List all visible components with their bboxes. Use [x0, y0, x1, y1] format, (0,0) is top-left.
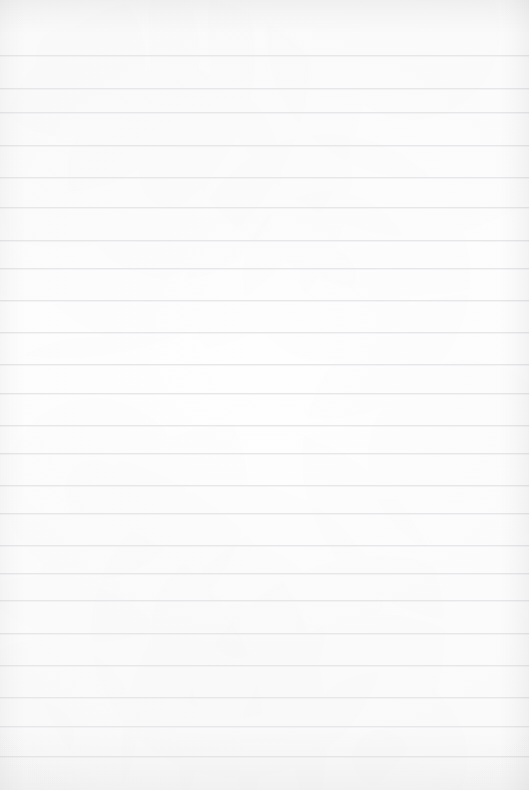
paper-background [0, 0, 529, 790]
ruled-paper-sheet [0, 0, 529, 790]
